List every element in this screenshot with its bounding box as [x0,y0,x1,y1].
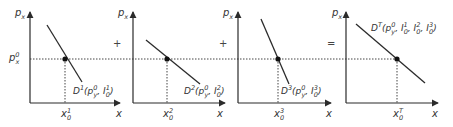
label-rest: , I [208,86,216,96]
label-base: D [371,23,378,33]
label-sub: 0 [280,114,284,122]
demand-curve [146,40,200,84]
y-axis-label-1: px [15,8,25,18]
label-sub: x [21,13,25,21]
plus-operator-1: + [113,39,121,49]
y-axis-label-2: px [118,8,128,18]
quantity-label-1: x10 [61,109,71,119]
label-rest: , I [421,23,429,33]
x-axis-label-1: x [116,109,122,119]
quantity-label-total: xT0 [393,109,403,119]
label-args: (p [195,86,204,96]
demand-curve-label-3: D3(p0y, I30) [281,87,322,96]
label-close: ) [433,23,437,33]
x-axis-label-3: x [326,109,332,119]
equilibrium-point [275,56,280,61]
x-axis-label-2: x [217,109,223,119]
equilibrium-point [62,56,67,61]
label-close: ) [110,86,114,96]
label-rest: , I [395,23,403,33]
demand-curve-label-2: D2(p0y, I20) [184,87,225,96]
quantity-label-3: x30 [274,109,284,119]
equals-operator: = [327,39,335,49]
label-args: (p [292,86,301,96]
label-base: D [73,86,80,96]
equilibrium-point [164,56,169,61]
plus-operator-2: + [219,39,227,49]
label-args: (p [84,86,93,96]
label-base: D [281,86,288,96]
label-base: D [184,86,191,96]
label-sub: 0 [67,114,71,122]
equilibrium-point [394,56,399,61]
label-args: (p [382,23,391,33]
label-close: ) [221,86,225,96]
label-rest: , I [97,86,105,96]
demand-curve [47,25,82,82]
label-sub: 0 [169,114,173,122]
price-level-label: p0x [9,53,19,63]
label-sub: x [124,13,128,21]
label-close: ) [318,86,322,96]
demand-curve-label-1: D1(p0y, I10) [73,87,114,96]
y-axis-label-3: px [223,8,233,18]
y-axis-label-total: px [332,8,342,18]
quantity-label-2: x20 [163,109,173,119]
label-sub: x [16,58,20,66]
label-sub: x [229,13,233,21]
label-rest: , I [408,23,416,33]
label-rest: , I [305,86,313,96]
label-sub: x [338,13,342,21]
demand-curve [261,19,289,84]
demand-curve-label-total: DT(p0y, I10, I20, I30) [371,24,437,33]
label-sub: 0 [399,114,403,122]
x-axis-label-total: x [432,109,438,119]
